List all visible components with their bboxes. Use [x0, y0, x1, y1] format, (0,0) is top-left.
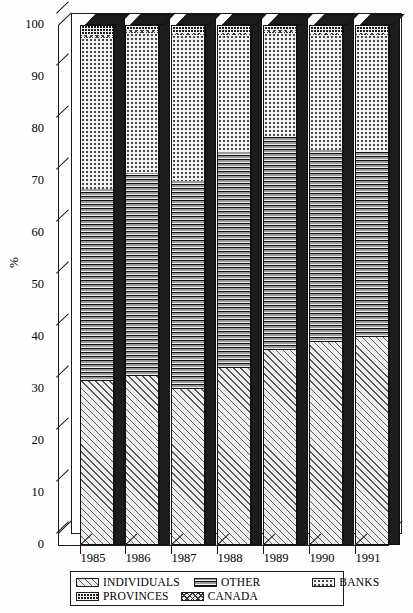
x-tick-label-1985: 1985 — [70, 551, 116, 566]
legend-item-banks: BANKS — [312, 577, 379, 588]
x-tick-label-1986: 1986 — [115, 551, 161, 566]
legend-label-provinces: PROVINCES — [103, 591, 169, 602]
x-axis-ticks: 1985198619871988198919901991 — [0, 0, 413, 613]
legend-swatch-other-icon — [194, 578, 217, 587]
legend-label-individuals: INDIVIDUALS — [103, 577, 180, 588]
legend-swatch-provinces-icon — [76, 592, 99, 601]
legend-row-2: PROVINCES CANADA — [76, 589, 339, 603]
legend-label-canada: CANADA — [208, 591, 258, 602]
x-tick-mark — [355, 533, 368, 545]
x-tick-label-1990: 1990 — [299, 551, 345, 566]
legend-label-other: OTHER — [221, 577, 260, 588]
legend-item-canada: CANADA — [181, 591, 258, 602]
x-tick-mark — [217, 533, 230, 545]
legend-label-banks: BANKS — [339, 577, 379, 588]
chart-page: % 0102030405060708090100 198519861987198… — [0, 0, 413, 613]
x-tick-mark — [171, 533, 184, 545]
legend-row-1: INDIVIDUALS OTHER BANKS — [76, 575, 339, 589]
legend-item-individuals: INDIVIDUALS — [76, 577, 180, 588]
legend-swatch-banks-icon — [312, 578, 335, 587]
legend-item-provinces: PROVINCES — [76, 591, 169, 602]
x-tick-mark — [80, 533, 93, 545]
legend-item-other: OTHER — [194, 577, 260, 588]
x-tick-label-1989: 1989 — [253, 551, 299, 566]
x-tick-mark — [309, 533, 322, 545]
x-tick-mark — [125, 533, 138, 545]
legend-swatch-individuals-icon — [76, 578, 99, 587]
x-tick-label-1987: 1987 — [161, 551, 207, 566]
x-tick-mark — [263, 533, 276, 545]
x-tick-label-1988: 1988 — [207, 551, 253, 566]
legend-swatch-canada-icon — [181, 592, 204, 601]
chart-legend: INDIVIDUALS OTHER BANKS PROVINCES CANADA — [70, 571, 344, 606]
x-tick-label-1991: 1991 — [345, 551, 391, 566]
